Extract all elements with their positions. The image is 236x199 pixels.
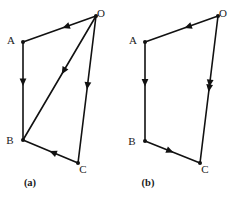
b-vertex-dot-B [143, 139, 147, 143]
b-edge-A-B [142, 42, 149, 141]
vector-diagram-svg: OABC(a)OABC(b) [0, 0, 236, 199]
a-edge-O-B-line [23, 16, 96, 140]
b-vertex-label-O: O [219, 7, 227, 19]
a-edge-A-B-arrowhead-1 [20, 79, 27, 87]
panel-a: OABC(a) [6, 7, 105, 189]
b-vertex-label-B: B [128, 135, 135, 147]
panel-b: OABC(b) [128, 7, 227, 189]
b-vertex-label-C: C [201, 163, 208, 175]
figure-root: OABC(a)OABC(b) [0, 0, 236, 199]
a-edge-A-B [20, 42, 27, 140]
b-edge-O-C [200, 16, 218, 163]
b-edge-A-B-arrowhead-1 [142, 79, 149, 87]
b-edge-O-A-arrowhead-1 [184, 22, 192, 28]
a-edge-O-C [78, 16, 96, 163]
a-vertex-label-B: B [6, 134, 13, 146]
panel-caption-a: (a) [24, 177, 37, 189]
panel-caption-b: (b) [142, 177, 155, 189]
a-edge-O-A-arrowhead-1 [62, 22, 70, 28]
b-vertex-label-A: A [129, 34, 137, 46]
b-vertex-dot-A [143, 40, 147, 44]
b-edge-B-C [145, 141, 200, 163]
a-edge-O-B [23, 16, 96, 140]
b-edge-O-A-line [145, 16, 218, 42]
a-edge-O-A [23, 16, 96, 42]
a-vertex-dot-B [21, 138, 25, 142]
a-vertex-label-O: O [97, 7, 105, 19]
a-vertex-label-C: C [79, 163, 86, 175]
a-edge-O-A-line [23, 16, 96, 42]
b-edge-O-A [145, 16, 218, 42]
a-edge-C-B [23, 140, 78, 163]
a-vertex-dot-A [21, 40, 25, 44]
a-vertex-label-A: A [7, 34, 15, 46]
